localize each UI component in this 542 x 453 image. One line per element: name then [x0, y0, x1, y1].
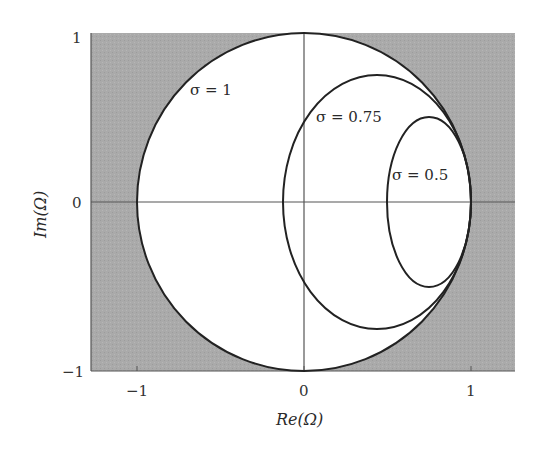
- y-axis-label: Im(Ω): [31, 191, 50, 239]
- ytick-0: 0: [72, 194, 82, 212]
- xtick-0: 0: [299, 382, 309, 400]
- xtick-neg1: −1: [126, 382, 148, 400]
- ytick-neg1: −1: [62, 363, 84, 381]
- label-sigma-0.5: σ = 0.5: [392, 166, 448, 184]
- label-sigma-1: σ = 1: [190, 81, 232, 99]
- xtick-1: 1: [466, 382, 476, 400]
- label-sigma-0.75: σ = 0.75: [316, 108, 382, 126]
- ytick-1: 1: [72, 29, 82, 47]
- x-axis-label: Re(Ω): [275, 410, 323, 429]
- stability-region-chart: σ = 1 σ = 0.75 σ = 0.5 1 0 −1 −1 0 1 Re(…: [0, 0, 542, 453]
